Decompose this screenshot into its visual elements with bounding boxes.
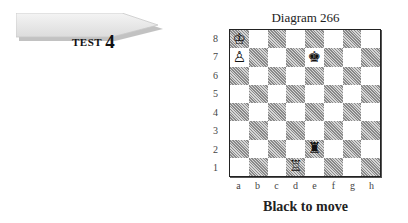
square-e5 [305, 85, 324, 103]
square-a1 [230, 158, 249, 176]
square-a4 [230, 103, 249, 121]
square-b8 [249, 30, 268, 48]
square-h4 [361, 103, 380, 121]
file-label-e: e [305, 180, 324, 191]
test-label: TEST4 [72, 29, 115, 51]
square-h6 [361, 67, 380, 85]
test-banner: TEST4 [16, 13, 158, 39]
square-a5 [230, 85, 249, 103]
square-f7 [324, 48, 343, 66]
square-h5 [361, 85, 380, 103]
rank-label-6: 6 [213, 66, 218, 85]
rank-label-7: 7 [213, 48, 218, 67]
square-e1 [305, 158, 324, 176]
square-a6 [230, 67, 249, 85]
square-c8 [268, 30, 287, 48]
square-g6 [343, 67, 362, 85]
white-king-icon: ♔ [233, 32, 246, 47]
file-label-c: c [267, 180, 286, 191]
square-f6 [324, 67, 343, 85]
chess-board: ♔♙♚♜♖ [229, 29, 381, 177]
square-d2 [286, 140, 305, 158]
square-d7 [286, 48, 305, 66]
square-d1: ♖ [286, 158, 305, 176]
file-label-h: h [362, 180, 381, 191]
white-rook-icon: ♖ [289, 159, 302, 174]
square-h1 [361, 158, 380, 176]
square-c5 [268, 85, 287, 103]
square-a2 [230, 140, 249, 158]
square-b1 [249, 158, 268, 176]
file-label-g: g [343, 180, 362, 191]
square-g8 [343, 30, 362, 48]
square-f4 [324, 103, 343, 121]
square-a3 [230, 121, 249, 139]
rank-label-1: 1 [213, 159, 218, 178]
file-label-b: b [248, 180, 267, 191]
rank-label-5: 5 [213, 85, 218, 104]
diagram-caption: Black to move [229, 199, 382, 215]
square-e3 [305, 121, 324, 139]
square-b7 [249, 48, 268, 66]
diagram-title: Diagram 266 [229, 10, 382, 26]
square-g7 [343, 48, 362, 66]
square-f8 [324, 30, 343, 48]
square-f5 [324, 85, 343, 103]
square-b2 [249, 140, 268, 158]
square-c4 [268, 103, 287, 121]
square-g4 [343, 103, 362, 121]
square-e2: ♜ [305, 140, 324, 158]
file-label-a: a [229, 180, 248, 191]
square-c6 [268, 67, 287, 85]
square-e8 [305, 30, 324, 48]
square-h8 [361, 30, 380, 48]
square-b3 [249, 121, 268, 139]
black-rook-icon: ♜ [308, 141, 321, 156]
square-d4 [286, 103, 305, 121]
square-b4 [249, 103, 268, 121]
square-h7 [361, 48, 380, 66]
square-e7: ♚ [305, 48, 324, 66]
square-a7: ♙ [230, 48, 249, 66]
square-f2 [324, 140, 343, 158]
rank-label-4: 4 [213, 103, 218, 122]
square-e6 [305, 67, 324, 85]
square-g5 [343, 85, 362, 103]
square-c3 [268, 121, 287, 139]
square-f3 [324, 121, 343, 139]
white-pawn-icon: ♙ [233, 50, 246, 65]
rank-label-2: 2 [213, 140, 218, 159]
square-e4 [305, 103, 324, 121]
square-d6 [286, 67, 305, 85]
square-d5 [286, 85, 305, 103]
square-h3 [361, 121, 380, 139]
square-b5 [249, 85, 268, 103]
square-d3 [286, 121, 305, 139]
square-d8 [286, 30, 305, 48]
square-c1 [268, 158, 287, 176]
square-g3 [343, 121, 362, 139]
square-h2 [361, 140, 380, 158]
test-number: 4 [105, 31, 115, 52]
square-b6 [249, 67, 268, 85]
rank-labels: 87654321 [213, 29, 218, 177]
black-king-icon: ♚ [308, 50, 321, 65]
file-labels: abcdefgh [229, 180, 381, 191]
file-label-d: d [286, 180, 305, 191]
square-c7 [268, 48, 287, 66]
square-g1 [343, 158, 362, 176]
file-label-f: f [324, 180, 343, 191]
rank-label-8: 8 [213, 29, 218, 48]
square-f1 [324, 158, 343, 176]
test-label-text: TEST [72, 36, 102, 48]
square-g2 [343, 140, 362, 158]
square-a8: ♔ [230, 30, 249, 48]
square-c2 [268, 140, 287, 158]
rank-label-3: 3 [213, 122, 218, 141]
